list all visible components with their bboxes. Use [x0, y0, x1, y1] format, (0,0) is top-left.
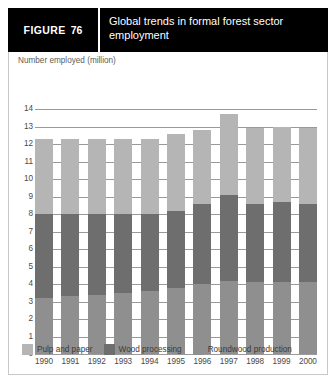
- y-axis-tick-label: 3: [13, 297, 33, 306]
- bar-column: [88, 109, 106, 354]
- y-axis-tick-label: 11: [13, 157, 33, 166]
- y-axis-tick-label: 7: [13, 227, 33, 236]
- bar-segment: [61, 214, 79, 296]
- bar-segment: [88, 139, 106, 214]
- bar-segment: [273, 202, 291, 283]
- legend-label: Roundwood production: [208, 345, 292, 354]
- bar-column: [141, 109, 159, 354]
- y-axis-tick-label: 12: [13, 139, 33, 148]
- x-axis: 1990199119921993199419951996199719981999…: [35, 357, 317, 366]
- figure-card: FIGURE 76 Global trends in formal forest…: [8, 8, 328, 375]
- bar-column: [299, 109, 317, 354]
- bar-segment: [299, 128, 317, 203]
- bar-segment: [61, 139, 79, 214]
- y-axis-tick-label: 2: [13, 314, 33, 323]
- x-axis-tick-label: 1998: [246, 357, 264, 366]
- legend-label: Pulp and paper: [37, 345, 93, 354]
- figure-title: Global trends in formal forest sector em…: [100, 8, 328, 52]
- bar-column: [246, 109, 264, 354]
- bar-segment: [167, 134, 185, 211]
- figure-header: FIGURE 76 Global trends in formal forest…: [8, 8, 328, 52]
- legend-label: Wood processing: [119, 345, 182, 354]
- x-axis-tick-label: 1996: [193, 357, 211, 366]
- bar-column: [114, 109, 132, 354]
- x-axis-tick-label: 1993: [114, 357, 132, 366]
- bar-segment: [114, 214, 132, 293]
- y-axis-tick-label: 4: [13, 279, 33, 288]
- legend-swatch: [193, 344, 204, 355]
- x-axis-tick-label: 1992: [88, 357, 106, 366]
- bar-segment: [246, 204, 264, 283]
- x-axis-tick-label: 1999: [273, 357, 291, 366]
- bar-column: [220, 109, 238, 354]
- bar-column: [167, 109, 185, 354]
- y-axis-tick-label: 9: [13, 192, 33, 201]
- legend-item: Wood processing: [104, 344, 182, 355]
- plot-region: [35, 109, 317, 354]
- figure-number-cell: FIGURE 76: [8, 8, 100, 52]
- bar-segment: [35, 139, 53, 214]
- bar-segment: [141, 139, 159, 214]
- y-axis-tick-label: 5: [13, 262, 33, 271]
- y-axis-tick-label: 14: [13, 104, 33, 113]
- legend-item: Roundwood production: [193, 344, 292, 355]
- x-axis-tick-label: 1990: [35, 357, 53, 366]
- bar-segment: [220, 281, 238, 355]
- bar-column: [193, 109, 211, 354]
- y-axis-tick-label: 10: [13, 174, 33, 183]
- legend-item: Pulp and paper: [22, 344, 93, 355]
- bar-segment: [141, 214, 159, 291]
- x-axis-tick-label: 2000: [299, 357, 317, 366]
- bar-segment: [193, 204, 211, 285]
- legend-swatch: [104, 344, 115, 355]
- bar-segment: [273, 127, 291, 202]
- bar-column: [273, 109, 291, 354]
- x-axis-tick-label: 1994: [141, 357, 159, 366]
- legend-swatch: [22, 344, 33, 355]
- x-axis-tick-label: 1997: [220, 357, 238, 366]
- bar-series-group: [35, 109, 317, 354]
- figure-number: 76: [71, 24, 83, 36]
- bar-segment: [114, 139, 132, 214]
- y-axis: 14131211109876543210: [9, 109, 33, 354]
- chart-legend: Pulp and paperWood processingRoundwood p…: [22, 344, 318, 355]
- chart-area: Number employed (million) 14131211109876…: [8, 52, 328, 375]
- y-axis-tick-label: 6: [13, 244, 33, 253]
- y-axis-tick-label: 1: [13, 332, 33, 341]
- bar-segment: [35, 214, 53, 298]
- bar-segment: [299, 204, 317, 283]
- x-axis-tick-label: 1991: [61, 357, 79, 366]
- bar-column: [61, 109, 79, 354]
- x-axis-tick-label: 1995: [167, 357, 185, 366]
- bar-segment: [220, 114, 238, 195]
- bar-segment: [246, 128, 264, 203]
- bar-segment: [193, 130, 211, 204]
- y-axis-title: Number employed (million): [18, 56, 116, 65]
- bar-segment: [88, 214, 106, 295]
- y-axis-tick-label: 8: [13, 209, 33, 218]
- bar-segment: [220, 195, 238, 281]
- bar-segment: [167, 211, 185, 288]
- bar-column: [35, 109, 53, 354]
- figure-label-word: FIGURE: [24, 24, 66, 36]
- y-axis-tick-label: 13: [13, 122, 33, 131]
